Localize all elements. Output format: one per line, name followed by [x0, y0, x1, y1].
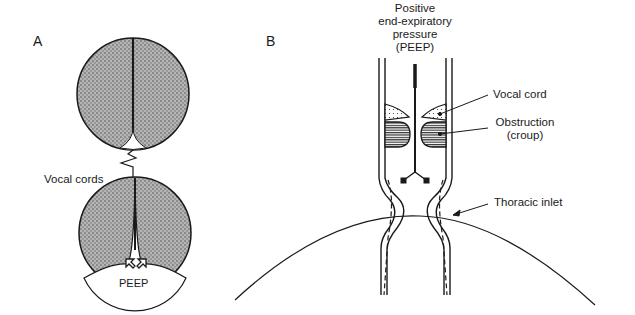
- dashed-contour: [384, 180, 447, 295]
- obstruction-label: Obstruction (croup): [485, 116, 565, 142]
- peep-title-line: end-expiratory: [363, 15, 467, 28]
- peep-title-line: (PEEP): [363, 41, 467, 54]
- vocal-cords-label: Vocal cords: [44, 173, 103, 186]
- peep-title: Positive end-expiratory pressure (PEEP): [363, 2, 467, 54]
- thoracic-inlet-label: Thoracic inlet: [494, 196, 562, 209]
- vocal-cords-zigzag: [121, 150, 136, 178]
- obstruction-label-line1: Obstruction: [485, 116, 565, 129]
- upper-lungs: [77, 38, 189, 150]
- panel-a-letter: A: [33, 33, 42, 49]
- peep-title-line: pressure: [363, 28, 467, 41]
- peep-title-line: Positive: [363, 2, 467, 15]
- lower-lungs: [79, 177, 191, 311]
- diagram-canvas: [0, 0, 635, 315]
- vocal-cord-label: Vocal cord: [493, 88, 547, 101]
- obstruction-label-line2: (croup): [485, 129, 565, 142]
- panel-b-letter: B: [266, 33, 275, 49]
- peep-label: PEEP: [119, 277, 148, 290]
- thoracic-inlet-curve: [235, 216, 595, 305]
